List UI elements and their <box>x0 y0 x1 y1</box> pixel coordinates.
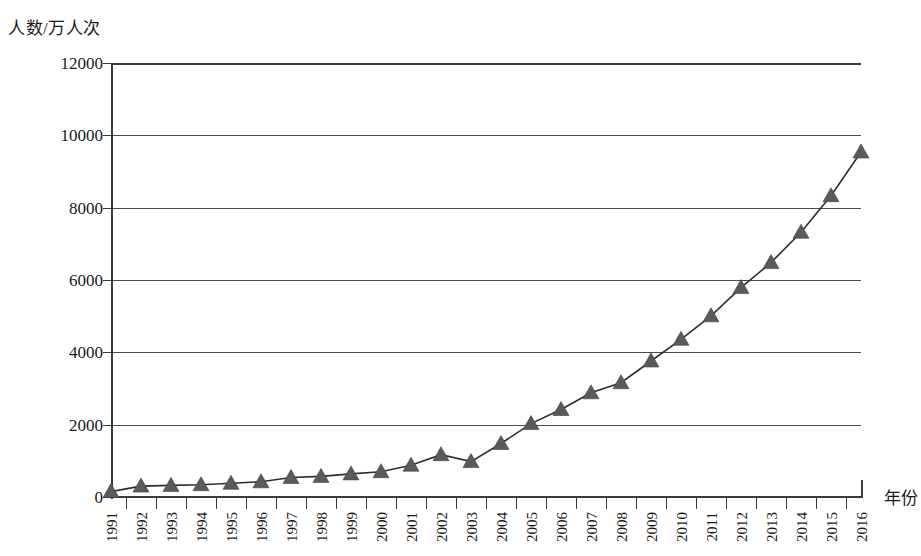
data-series-layer <box>0 0 921 556</box>
data-point-1992 <box>133 478 149 492</box>
chart-figure: 人数/万人次 年份 020004000600080001000012000 19… <box>0 0 921 556</box>
data-point-2006 <box>553 402 569 416</box>
data-point-2004 <box>493 436 509 450</box>
data-markers <box>103 144 869 498</box>
data-point-2008 <box>613 375 629 389</box>
data-point-2012 <box>733 280 749 294</box>
data-point-1993 <box>163 477 179 491</box>
data-point-2002 <box>433 447 449 461</box>
data-point-2009 <box>643 353 659 367</box>
data-point-2010 <box>673 331 689 345</box>
data-point-2005 <box>523 416 539 430</box>
data-point-2015 <box>823 188 839 202</box>
data-line <box>111 152 861 492</box>
data-point-2007 <box>583 385 599 399</box>
data-point-2001 <box>403 457 419 471</box>
data-point-2016 <box>853 144 869 158</box>
